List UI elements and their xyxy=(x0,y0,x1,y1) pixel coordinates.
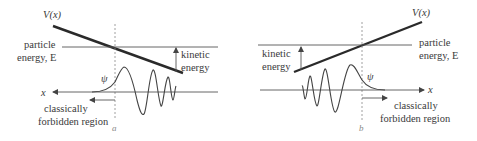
kinetic-label-line2: energy xyxy=(262,61,291,72)
wavefunction-label: ψ xyxy=(101,73,108,84)
kinetic-label-line1: kinetic xyxy=(262,48,291,59)
turning-point-label: b xyxy=(359,123,364,133)
energy-label-line2: energy, E xyxy=(419,50,458,61)
forbidden-label-line2: forbidden region xyxy=(380,113,451,124)
kinetic-label-line1: kinetic xyxy=(181,49,210,60)
right-panel: V(x) particle energy, E b x kinetic ener… xyxy=(258,7,458,133)
energy-label-line1: particle xyxy=(24,39,56,50)
potential-curve xyxy=(294,22,422,72)
axis-label: x xyxy=(427,84,433,95)
diagram-canvas: V(x) particle energy, E a x kinetic ener… xyxy=(0,0,477,141)
turning-point-label: a xyxy=(112,123,117,133)
potential-label: V(x) xyxy=(43,9,62,21)
potential-label: V(x) xyxy=(412,7,431,19)
wavefunction-label: ψ xyxy=(367,71,374,82)
energy-label-line1: particle xyxy=(419,37,451,48)
forbidden-label-line1: classically xyxy=(394,100,438,111)
left-panel: V(x) particle energy, E a x kinetic ener… xyxy=(17,9,218,133)
forbidden-label-line1: classically xyxy=(44,103,88,114)
forbidden-label-line2: forbidden region xyxy=(38,116,109,127)
energy-label-line2: energy, E xyxy=(17,52,56,63)
potential-curve xyxy=(53,26,183,73)
kinetic-label-line2: energy xyxy=(181,62,210,73)
axis-label: x xyxy=(40,87,46,98)
